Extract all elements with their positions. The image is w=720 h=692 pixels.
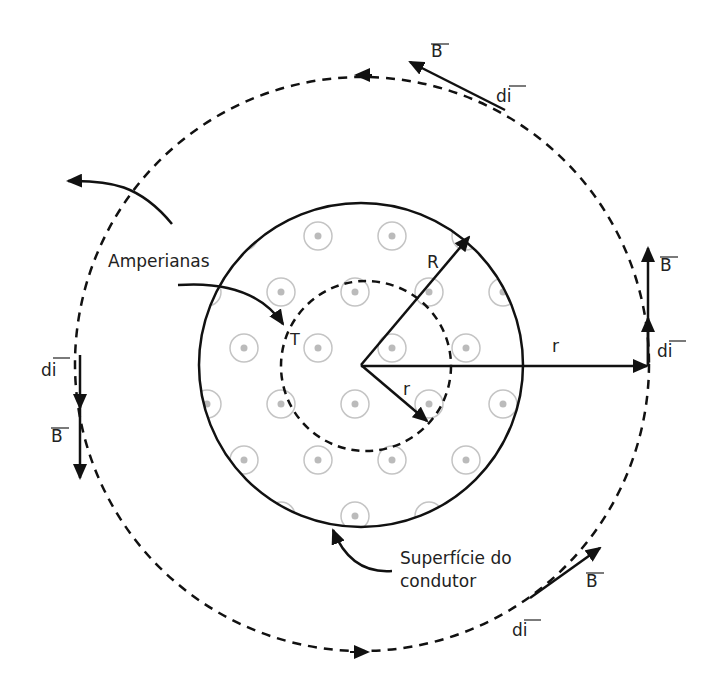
diagram-svg: Amperianas Superfície do condutor R T r … <box>0 0 720 692</box>
label-R: R <box>427 252 439 272</box>
label-T: T <box>289 330 300 349</box>
label-r-inner: r <box>403 379 410 399</box>
top-B-vector <box>410 62 505 110</box>
label-B-bottom: B <box>586 571 598 591</box>
label-B-right: B <box>660 255 672 275</box>
label-superficie-line2: condutor <box>400 571 476 591</box>
diagram-canvas: Amperianas Superfície do condutor R T r … <box>0 0 720 692</box>
conductor-current-dots <box>194 184 544 534</box>
label-dl-right: di <box>657 341 673 361</box>
label-dl-bottom: di <box>512 620 528 640</box>
label-r-outer: r <box>552 336 559 356</box>
label-dl-left: di <box>41 360 57 380</box>
amperianas-pointer-outer <box>68 181 172 224</box>
label-amperianas: Amperianas <box>108 251 210 271</box>
label-superficie-line1: Superfície do <box>400 548 512 568</box>
surface-pointer-arrow <box>333 530 392 571</box>
label-dl-top: di <box>496 86 512 106</box>
label-B-left: B <box>51 426 63 446</box>
